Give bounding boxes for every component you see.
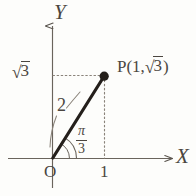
y-tick-label-sqrt3: √3: [12, 62, 30, 80]
radicand-value: 3: [153, 56, 163, 74]
origin-label: O: [44, 163, 56, 180]
coordinate-plane-svg: [0, 0, 196, 196]
point-label-radical: √3: [145, 57, 163, 75]
point-p-marker: [100, 72, 109, 81]
radicand-value: 3: [21, 61, 31, 79]
angle-numerator: π: [76, 124, 87, 140]
radius-length-leader-lower: [50, 116, 57, 147]
radius-length-leader: [67, 92, 81, 108]
y-axis-label: Y: [54, 2, 66, 23]
x-axis-label: X: [176, 146, 189, 167]
angle-label: π 3: [76, 124, 87, 156]
point-p-label: P(1,√3): [117, 57, 169, 75]
angle-fraction: π 3: [76, 124, 87, 156]
math-figure-canvas: Y X O 1 √3 2 P(1,√3) π 3: [0, 0, 196, 196]
point-label-prefix: P(1,: [117, 57, 145, 76]
point-label-suffix: ): [163, 57, 169, 76]
x-tick-label-1: 1: [100, 163, 109, 180]
angle-denominator: 3: [76, 141, 87, 157]
radius-length-label: 2: [57, 96, 66, 114]
